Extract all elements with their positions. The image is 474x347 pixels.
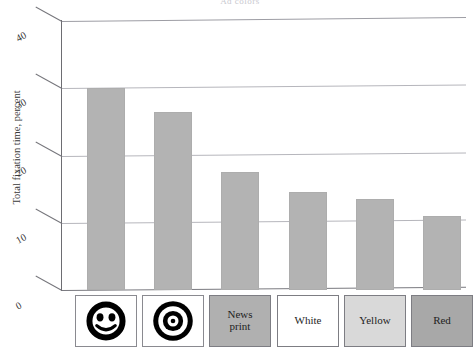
category-swatch-2 bbox=[142, 295, 204, 347]
category-swatch-4: White bbox=[277, 295, 339, 347]
bars-layer bbox=[62, 21, 466, 290]
category-swatch-3: Newsprint bbox=[209, 295, 271, 347]
y-tick-label-0: 0 bbox=[14, 299, 24, 311]
bar bbox=[356, 199, 394, 290]
bar bbox=[221, 172, 259, 290]
tick-leader bbox=[36, 141, 63, 156]
category-label: Newsprint bbox=[225, 309, 254, 332]
bullseye-icon bbox=[150, 298, 196, 344]
category-swatch-1 bbox=[75, 295, 137, 347]
bar bbox=[87, 88, 125, 290]
tick-leader bbox=[36, 208, 63, 223]
smiley-face-icon bbox=[83, 298, 129, 344]
chart-title: Ad colors bbox=[150, 0, 330, 6]
category-swatch-5: Yellow bbox=[344, 295, 406, 347]
bar bbox=[154, 112, 192, 290]
bar bbox=[423, 216, 461, 290]
category-label: Yellow bbox=[357, 315, 392, 327]
tick-leader bbox=[36, 7, 63, 22]
bar bbox=[289, 192, 327, 290]
category-swatch-row: NewsprintWhiteYellowRed bbox=[62, 292, 466, 347]
y-tick-label-40: 40 bbox=[14, 29, 28, 43]
y-tick-label-10: 10 bbox=[14, 231, 28, 245]
tick-leader bbox=[36, 74, 63, 89]
tick-leader bbox=[36, 276, 63, 291]
category-label: Red bbox=[431, 315, 453, 327]
category-label: White bbox=[293, 315, 324, 327]
category-swatch-6: Red bbox=[411, 295, 473, 347]
y-axis-title: Total fixation time, percent bbox=[11, 68, 22, 228]
bar-chart: Ad colors Total fixation time, percent 4… bbox=[0, 0, 474, 347]
